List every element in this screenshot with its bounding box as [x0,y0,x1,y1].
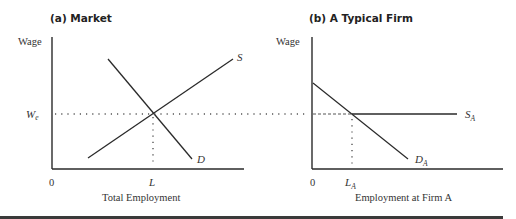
panel-market: (a) Market Wage 0 S D We L Total Employm… [18,12,244,203]
firm-employment-label: LA [344,176,356,191]
panel-firm-title: (b) A Typical Firm [309,12,413,24]
footer-rule [0,216,503,219]
market-supply-curve [88,59,233,158]
market-y-axis-label: Wage [18,36,42,47]
market-demand-label: D [196,153,205,165]
firm-supply-label: SA [465,108,476,123]
firm-demand-label: DA [414,153,428,168]
market-demand-curve [108,59,192,159]
panel-firm: (b) A Typical Firm Wage 0 SA DA LA Emplo… [276,12,503,203]
firm-origin-label: 0 [310,177,315,188]
market-supply-label: S [237,51,243,63]
firm-y-axis-label: Wage [276,36,300,47]
firm-demand-curve [313,83,408,159]
market-wage-label: We [26,108,39,122]
market-origin-label: 0 [49,177,54,188]
panel-market-title: (a) Market [50,12,112,24]
market-employment-label: L [148,176,155,188]
firm-x-axis-label: Employment at Firm A [355,192,453,203]
labor-market-diagram: (a) Market Wage 0 S D We L Total Employm… [0,0,516,219]
market-x-axis-label: Total Employment [102,192,180,203]
